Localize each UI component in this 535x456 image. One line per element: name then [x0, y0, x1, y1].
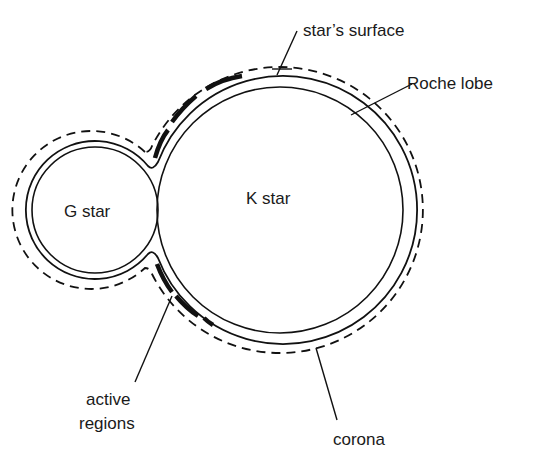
active-regions-label-line2: regions — [79, 414, 135, 433]
g-star-label: G star — [64, 202, 111, 221]
leader-lines — [135, 31, 412, 420]
binary-star-diagram: star’s surface Roche lobe G star K star … — [0, 0, 535, 456]
active-regions-label-line1: active — [86, 390, 130, 409]
corona-label: corona — [333, 430, 386, 449]
k-star-label: K star — [246, 189, 291, 208]
roche-lobe-label: Roche lobe — [407, 74, 493, 93]
corona-leader — [316, 348, 337, 420]
stars-surface-label: star’s surface — [303, 21, 404, 40]
diagram-canvas: star’s surface Roche lobe G star K star … — [0, 0, 535, 456]
active-regions-leader — [135, 296, 172, 382]
active-regions — [155, 76, 242, 325]
